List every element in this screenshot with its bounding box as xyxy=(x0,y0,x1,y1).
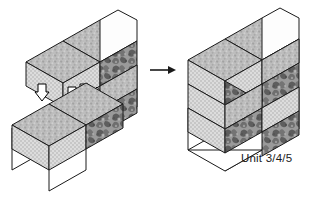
diagram-canvas: Unit 3/4/5 xyxy=(0,0,323,198)
isometric-diagram: Unit 3/4/5 xyxy=(0,0,323,198)
unit-label: Unit 3/4/5 xyxy=(241,152,292,164)
